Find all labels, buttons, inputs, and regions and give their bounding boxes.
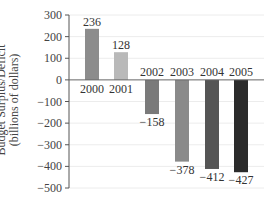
category-label: 2003 (170, 65, 194, 79)
bar-2003 (175, 80, 189, 162)
value-label: 128 (112, 38, 130, 52)
value-label: −412 (200, 170, 225, 184)
y-tick-label: 300 (44, 8, 62, 22)
bar-2004 (205, 80, 219, 169)
value-label: −158 (140, 115, 165, 129)
bar-2005 (234, 80, 248, 172)
y-tick-label: 0 (56, 73, 62, 87)
y-tick-label: −400 (37, 159, 62, 173)
y-tick-label: −500 (37, 181, 62, 195)
y-tick-label: −300 (37, 138, 62, 152)
category-label: 2000 (80, 82, 104, 96)
y-axis: 3002001000−100−200−300−400−500 (37, 8, 69, 195)
value-label: 236 (83, 15, 101, 29)
category-label: 2002 (140, 65, 164, 79)
bars (85, 29, 248, 172)
budget-bar-chart: 3002001000−100−200−300−400−500 200023620… (0, 0, 269, 199)
y-tick-label: 100 (44, 51, 62, 65)
bar-2000 (85, 29, 99, 80)
value-label: −427 (229, 173, 254, 187)
y-tick-label: 200 (44, 30, 62, 44)
category-label: 2001 (109, 82, 133, 96)
category-label: 2004 (200, 65, 224, 79)
bar-2001 (114, 52, 128, 80)
bar-2002 (145, 80, 159, 114)
category-label: 2005 (229, 65, 253, 79)
value-label: −378 (170, 163, 195, 177)
y-tick-label: −200 (37, 116, 62, 130)
y-tick-label: −100 (37, 95, 62, 109)
